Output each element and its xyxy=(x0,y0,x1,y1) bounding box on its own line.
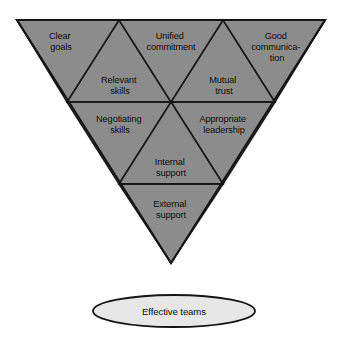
outcome-label: Effective teams xyxy=(142,306,206,317)
label-line: External xyxy=(153,199,186,209)
cell-label-clear-goals: Clear goals xyxy=(49,31,73,52)
label-line: Clear xyxy=(49,31,70,41)
label-line: leadership xyxy=(203,125,244,135)
label-line: commitment xyxy=(146,42,196,52)
cell-label-internal-support: Internal support xyxy=(155,157,187,178)
label-line: Internal xyxy=(155,157,185,167)
label-line: Relevant xyxy=(101,75,137,85)
label-line: Mutual xyxy=(209,75,236,85)
label-line: communica- xyxy=(251,42,300,52)
label-line: Unified xyxy=(156,31,184,41)
label-line: skills xyxy=(110,125,130,135)
label-line: Good xyxy=(265,31,287,41)
label-line: support xyxy=(156,168,186,178)
cell-shape-external-support[interactable] xyxy=(119,184,223,263)
label-line: skills xyxy=(110,86,130,96)
label-line: trust xyxy=(215,86,233,96)
label-line: tion xyxy=(270,53,284,63)
effective-teams-diagram: Clear goals Relevant skills Unified comm… xyxy=(0,0,343,349)
cell-label-external-support: External support xyxy=(153,199,188,220)
label-line: Appropriate xyxy=(200,114,246,124)
cell-label-appropriate-leadership: Appropriate leadership xyxy=(200,114,249,135)
diagram-canvas: Clear goals Relevant skills Unified comm… xyxy=(0,0,343,349)
label-line: Negotiating xyxy=(96,114,141,124)
label-line: goals xyxy=(50,42,72,52)
label-line: support xyxy=(156,210,186,220)
